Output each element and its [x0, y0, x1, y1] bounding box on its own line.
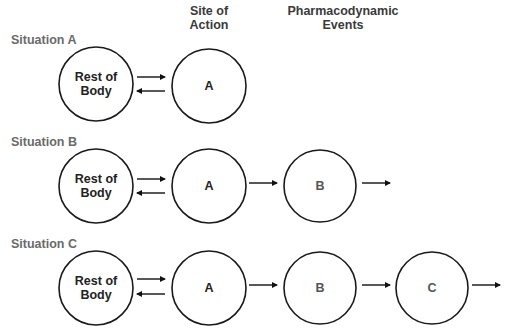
node-a: A: [172, 251, 246, 325]
situation-c-label: Situation C: [11, 237, 77, 251]
node-a-label: A: [204, 179, 213, 193]
header-site-of-action-line1: Site of: [190, 4, 229, 18]
header-pd-events-line2: Events: [323, 18, 364, 32]
node-rest-of-body: Rest of Body: [59, 149, 133, 223]
node-a: A: [172, 49, 246, 123]
header-site-of-action-line2: Action: [190, 18, 229, 32]
node-rest-line1: Rest of: [75, 172, 118, 186]
node-rest-of-body: Rest of Body: [59, 47, 133, 121]
node-rest-line1: Rest of: [75, 70, 118, 84]
node-rest-line2: Body: [80, 186, 111, 200]
node-rest-line1: Rest of: [75, 274, 118, 288]
node-rest-of-body: Rest of Body: [59, 251, 133, 325]
node-c-label: C: [427, 281, 436, 295]
situation-b-label: Situation B: [11, 135, 77, 149]
node-a-label: A: [204, 79, 213, 93]
node-a: A: [172, 149, 246, 223]
node-c: C: [396, 252, 468, 324]
header-pd-events-line1: Pharmacodynamic: [287, 4, 398, 18]
node-rest-line2: Body: [80, 84, 111, 98]
node-b: B: [284, 150, 356, 222]
node-a-label: A: [204, 281, 213, 295]
node-b-label: B: [315, 281, 324, 295]
node-b: B: [284, 252, 356, 324]
node-b-label: B: [315, 179, 324, 193]
situation-b: Situation B Rest of Body A B: [11, 135, 390, 223]
situation-a: Situation A Rest of Body A: [11, 33, 246, 123]
situation-a-label: Situation A: [11, 33, 77, 47]
situation-c: Situation C Rest of Body A B C: [11, 237, 500, 325]
pk-pd-diagram: Site of Action Pharmacodynamic Events Si…: [0, 0, 505, 333]
node-rest-line2: Body: [80, 288, 111, 302]
